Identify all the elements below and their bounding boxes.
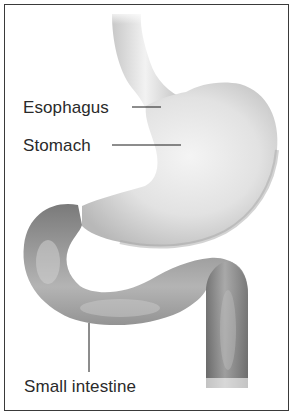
digestive-tract-illustration	[0, 0, 305, 419]
label-stomach: Stomach	[23, 137, 91, 154]
stomach-shape	[82, 82, 277, 246]
label-esophagus: Esophagus	[23, 99, 109, 116]
label-small-intestine: Small intestine	[24, 378, 136, 395]
